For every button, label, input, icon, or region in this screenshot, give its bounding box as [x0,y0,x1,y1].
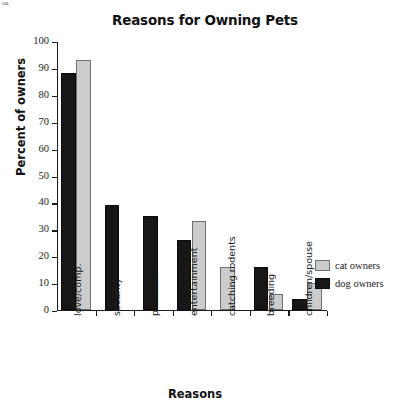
y-tick-label: 10 [39,277,50,288]
x-tick-mark [327,311,328,316]
y-tick-label: 60 [39,143,50,154]
scan-artifact-text: oa. [2,0,18,5]
y-tick-mark [52,230,57,231]
x-tick-mark [173,311,174,316]
y-tick-mark [52,123,57,124]
y-tick-label: 40 [39,196,50,207]
y-tick-mark [52,69,57,70]
y-axis-line [57,42,58,311]
x-tick-mark [250,311,251,316]
y-tick-mark [52,257,57,258]
x-axis-label-1: security [111,278,122,316]
y-tick-mark [52,311,57,312]
y-tick-label: 50 [39,170,50,181]
y-tick-mark [52,150,57,151]
y-tick-label: 0 [44,304,49,315]
y-tick-label: 80 [39,89,50,100]
chart-title: Reasons for Owning Pets [0,12,410,28]
legend-item: cat owners [315,258,384,273]
legend-label: dog owners [335,278,384,289]
x-tick-mark [96,311,97,316]
legend-swatch-icon [315,278,330,289]
y-tick-label: 100 [33,35,49,46]
y-tick-mark [52,203,57,204]
x-axis-label-3: entertainment [188,248,199,316]
legend-label: cat owners [335,260,380,271]
legend-item: dog owners [315,276,384,291]
y-tick-label: 30 [39,223,50,234]
chart-legend: cat ownersdog owners [315,258,384,294]
x-tick-mark [288,311,289,316]
x-tick-mark [134,311,135,316]
x-axis-label-2: protection [149,267,160,316]
x-axis-label-4: catching rodents [226,236,237,316]
x-axis-label-6: children/spouse [303,241,314,316]
legend-swatch-icon [315,260,330,271]
bar-chart: oa. Reasons for Owning Pets Percent of o… [0,0,410,411]
y-tick-mark [52,177,57,178]
y-axis-title: Percent of owners [14,58,28,176]
y-tick-mark [52,284,57,285]
x-axis-label-5: breeding [265,274,276,316]
y-tick-label: 20 [39,250,50,261]
x-tick-mark [211,311,212,316]
x-axis-label-0: love/comp. [72,264,83,316]
y-tick-label: 70 [39,116,50,127]
y-tick-label: 90 [39,62,50,73]
y-tick-mark [52,42,57,43]
y-tick-mark [52,96,57,97]
x-axis-title: Reasons [0,387,390,401]
